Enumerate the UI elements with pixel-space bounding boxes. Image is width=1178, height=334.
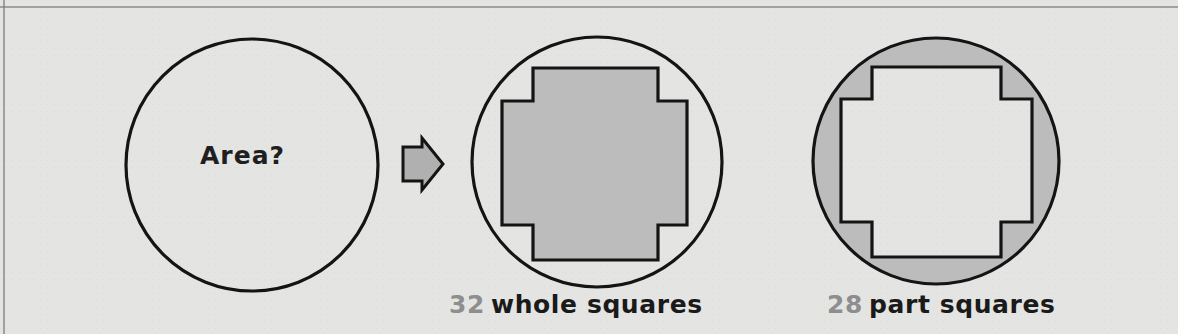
area-question-label: Area? — [200, 143, 285, 168]
whole-squares-label: 32whole squares — [449, 292, 703, 317]
right-arrow-icon — [403, 138, 443, 190]
part-squares-text: part squares — [869, 290, 1056, 319]
whole-squares-count: 32 — [449, 290, 485, 319]
whole-squares-text: whole squares — [491, 290, 703, 319]
panel-part-squares — [813, 38, 1059, 284]
panel-whole-squares — [472, 37, 722, 287]
worksheet-figure: Area? 32whole squares 28part squares — [0, 0, 1178, 334]
part-squares-count: 28 — [827, 290, 863, 319]
figure-canvas — [0, 0, 1178, 334]
whole-squares-region — [502, 68, 687, 260]
part-squares-label: 28part squares — [827, 292, 1056, 317]
